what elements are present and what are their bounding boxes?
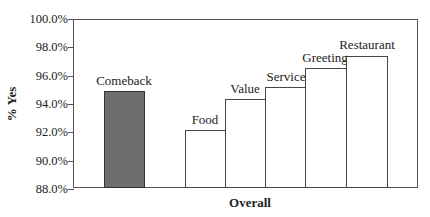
y-tick xyxy=(68,76,74,77)
y-tick xyxy=(68,189,74,190)
bar-comeback xyxy=(104,91,145,188)
bar-value xyxy=(225,99,266,188)
bar-food xyxy=(185,130,226,188)
y-tick-label: 96.0% xyxy=(36,69,68,83)
bar-label-value: Value xyxy=(230,81,260,97)
x-axis-label: Overall xyxy=(229,195,271,211)
y-tick-label: 90.0% xyxy=(36,154,68,168)
bar-service xyxy=(265,87,306,188)
y-tick xyxy=(68,104,74,105)
bar-label-food: Food xyxy=(192,112,219,128)
y-tick-label: 88.0% xyxy=(36,182,68,196)
bar-label-restaurant: Restaurant xyxy=(339,37,395,53)
y-axis-label: % Yes xyxy=(4,87,20,122)
y-tick-label: 94.0% xyxy=(36,97,68,111)
bar-label-service: Service xyxy=(267,69,306,85)
y-tick xyxy=(68,132,74,133)
bar-label-comeback: Comeback xyxy=(96,73,152,89)
bar-greeting xyxy=(305,68,347,188)
y-tick-label: 98.0% xyxy=(36,40,68,54)
y-tick xyxy=(68,19,74,20)
bar-restaurant xyxy=(346,56,388,188)
y-tick xyxy=(68,161,74,162)
y-tick xyxy=(68,47,74,48)
y-tick-label: 92.0% xyxy=(36,125,68,139)
y-tick-label: 100.0% xyxy=(29,12,68,26)
